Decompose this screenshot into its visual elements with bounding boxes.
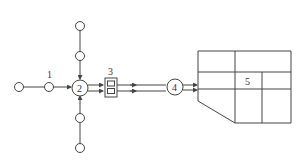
label-5: 5: [245, 76, 250, 87]
label-3: 3: [108, 66, 113, 77]
label-4: 4: [172, 82, 177, 93]
label-1: 1: [47, 69, 52, 80]
flow-diagram: 1 2 3 4 5: [0, 0, 301, 161]
label-2: 2: [77, 83, 82, 94]
source-node-left: [15, 83, 24, 92]
source-node-top-outer: [76, 22, 85, 31]
source-node-bottom-inner: [76, 114, 85, 123]
source-node-top-inner: [76, 52, 85, 61]
source-node-bottom-outer: [76, 144, 85, 153]
node-5-building: [198, 51, 291, 123]
node-1: [45, 83, 54, 92]
